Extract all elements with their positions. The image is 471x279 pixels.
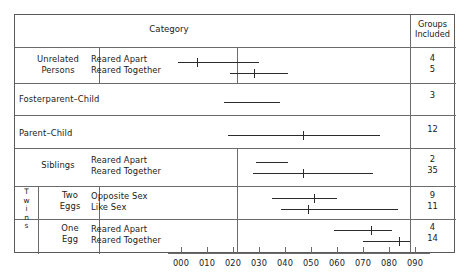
groups-unrelated-apart: 4 — [410, 53, 455, 64]
sub-label-opposite-sex: Opposite Sex — [91, 191, 148, 202]
row-label-siblings: Siblings — [17, 160, 99, 171]
sub-label-like-sex: Like Sex — [91, 202, 126, 213]
row-label-twins: T w i n s — [15, 188, 38, 231]
axis-tick-mark — [233, 247, 234, 253]
heredity-correlation-range-chart: Category GroupsIncluded UnrelatedPersons… — [0, 0, 471, 279]
sub-label-unrelated-reared-apart: Reared Apart — [91, 54, 147, 65]
row-label-fosterparent-child: Fosterparent–Child — [19, 94, 99, 105]
axis-tick-mark — [285, 247, 286, 253]
row-divider-siblings — [15, 186, 456, 187]
groups-unrelated-together: 5 — [410, 64, 455, 75]
axis-tick-mark — [311, 247, 312, 253]
header-groups-included: GroupsIncluded — [410, 19, 455, 39]
x-axis-line — [168, 253, 430, 254]
groups-fosterparent-child: 3 — [410, 90, 455, 101]
axis-tick-mark — [181, 247, 182, 253]
groups-siblings-apart: 2 — [410, 154, 455, 165]
sub-label-onegg-reared-apart: Reared Apart — [91, 224, 147, 235]
groups-parent-child: 12 — [410, 124, 455, 135]
row-divider-fosterparent — [15, 115, 456, 116]
groups-like-sex: 11 — [410, 201, 455, 212]
col-divider-sub-labels — [237, 148, 238, 254]
row-divider-header — [15, 47, 456, 48]
axis-tick-mark — [207, 247, 208, 253]
row-divider-unrelated — [15, 83, 456, 84]
sub-label-siblings-reared-together: Reared Together — [91, 166, 161, 177]
axis-tick-mark — [259, 247, 260, 253]
header-category: Category — [14, 24, 324, 34]
axis-tick-mark — [389, 247, 390, 253]
col-divider-twins — [38, 186, 39, 254]
category-table — [14, 14, 455, 253]
groups-siblings-together: 35 — [410, 165, 455, 176]
axis-tick-label: 090 — [400, 258, 430, 268]
axis-tick-mark — [363, 247, 364, 253]
row-divider-twoeggs — [15, 219, 456, 220]
sub-label-onegg-reared-together: Reared Together — [91, 235, 161, 246]
groups-onegg-together: 14 — [410, 233, 455, 244]
axis-tick-mark — [415, 247, 416, 253]
groups-opposite-sex: 9 — [410, 190, 455, 201]
row-label-parent-child: Parent–Child — [19, 128, 72, 139]
groups-onegg-apart: 4 — [410, 222, 455, 233]
sub-label-siblings-reared-apart: Reared Apart — [91, 155, 147, 166]
row-divider-parentchild — [15, 148, 456, 149]
sub-label-unrelated-reared-together: Reared Together — [91, 65, 161, 76]
row-label-unrelated-persons: UnrelatedPersons — [17, 54, 99, 75]
axis-tick-mark — [337, 247, 338, 253]
twins-letter-s: s — [15, 222, 38, 231]
col-divider-unrelated-sub — [237, 47, 238, 83]
